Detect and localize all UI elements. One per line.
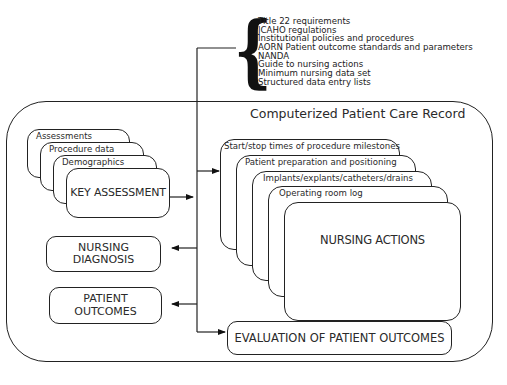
nursing-diagnosis-box: NURSING DIAGNOSIS — [46, 236, 161, 272]
card-label: Patient preparation and positioning — [245, 157, 397, 167]
evaluation-box: EVALUATION OF PATIENT OUTCOMES — [227, 321, 452, 355]
standards-item: Structured data entry lists — [258, 78, 473, 87]
evaluation-label: EVALUATION OF PATIENT OUTCOMES — [234, 332, 444, 345]
card-label: Assessments — [36, 131, 92, 141]
card-label: Start/stop times of procedure milestones — [224, 141, 400, 151]
card-label: Procedure data — [49, 144, 114, 154]
key-assessment-label: KEY ASSESSMENT — [67, 186, 169, 199]
key-assessment-box: KEY ASSESSMENT — [66, 168, 170, 218]
card-label: Demographics — [62, 157, 124, 167]
nursing-actions-box: NURSING ACTIONS — [284, 202, 461, 321]
patient-outcomes-label: PATIENT OUTCOMES — [71, 293, 141, 318]
standards-list: Title 22 requirements JCAHO regulations … — [258, 17, 473, 87]
patient-outcomes-box: PATIENT OUTCOMES — [49, 287, 162, 324]
card-label: Implants/explants/catheters/drains — [263, 173, 413, 183]
standards-item: AORN Patient outcome standards and param… — [258, 43, 473, 52]
nursing-actions-label: NURSING ACTIONS — [285, 233, 460, 247]
nursing-diagnosis-label: NURSING DIAGNOSIS — [69, 242, 139, 267]
card-label: Operating room log — [279, 188, 363, 198]
